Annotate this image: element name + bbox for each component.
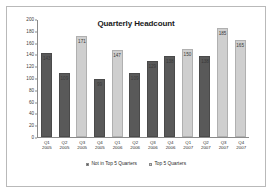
x-axis-label: Q32006 — [144, 140, 162, 150]
bar-value-label: 171 — [78, 40, 86, 45]
x-axis-label: Q32007 — [215, 140, 233, 150]
bar-value-label: 109 — [131, 77, 139, 82]
bar-slot: 129 — [143, 20, 161, 137]
x-axis-label: Q42005 — [91, 140, 109, 150]
x-axis-label: Q22005 — [56, 140, 74, 150]
x-axis-labels: Q12005Q22005Q32005Q42005Q12006Q22006Q320… — [38, 140, 250, 150]
bar-slot: 138 — [161, 20, 179, 137]
bar[interactable]: 129 — [147, 61, 158, 137]
x-axis-label-year: 2006 — [144, 145, 162, 150]
bar-slot: 147 — [108, 20, 126, 137]
x-axis-label-year: 2007 — [215, 145, 233, 150]
bar[interactable]: 150 — [182, 49, 193, 138]
bar[interactable]: 143 — [41, 53, 52, 137]
bar-value-label: 138 — [201, 60, 209, 65]
x-axis-line — [37, 137, 249, 138]
bar[interactable]: 165 — [235, 40, 246, 137]
chart-frame: Quarterly Headcount 02040608010012014016… — [6, 6, 266, 187]
y-axis-tick-mark — [35, 79, 37, 80]
plot-area: 020406080100120140160180200 143109171991… — [37, 20, 249, 138]
x-axis-label: Q22007 — [197, 140, 215, 150]
bar-slot: 109 — [56, 20, 74, 137]
bar-value-label: 185 — [219, 32, 227, 37]
x-axis-label-year: 2005 — [38, 145, 56, 150]
x-axis-label: Q42006 — [162, 140, 180, 150]
x-axis-label: Q12007 — [179, 140, 197, 150]
x-axis-label-year: 2005 — [91, 145, 109, 150]
bar[interactable]: 147 — [112, 50, 123, 137]
y-axis-tick-mark — [35, 126, 37, 127]
bar-slot: 138 — [196, 20, 214, 137]
bar[interactable]: 185 — [217, 28, 228, 137]
bar-slot: 171 — [73, 20, 91, 137]
chart-legend: Not in Top 5 QuartersTop 5 Quarters — [7, 162, 265, 167]
y-axis-tick-mark — [35, 31, 37, 32]
bar-value-label: 109 — [61, 77, 69, 82]
bar[interactable]: 138 — [164, 56, 175, 137]
bar-slot: 185 — [214, 20, 232, 137]
bar-slot: 150 — [179, 20, 197, 137]
bar[interactable]: 109 — [129, 73, 140, 137]
bar-slot: 143 — [38, 20, 56, 137]
bar[interactable]: 171 — [76, 36, 87, 137]
bar-value-label: 129 — [148, 65, 156, 70]
x-axis-label: Q12006 — [109, 140, 127, 150]
x-axis-label-year: 2006 — [126, 145, 144, 150]
bar[interactable]: 138 — [199, 56, 210, 137]
bar[interactable]: 109 — [59, 73, 70, 137]
bar-value-label: 150 — [184, 53, 192, 58]
y-axis-tick-mark — [35, 90, 37, 91]
bar-value-label: 143 — [43, 57, 51, 62]
legend-item[interactable]: Top 5 Quarters — [149, 162, 186, 167]
x-axis-label-year: 2007 — [197, 145, 215, 150]
legend-swatch-icon — [86, 163, 90, 167]
x-axis-label-year: 2005 — [56, 145, 74, 150]
x-axis-label: Q32005 — [73, 140, 91, 150]
bar-slot: 99 — [91, 20, 109, 137]
bar-series: 14310917199147109129138150138185165 — [38, 20, 249, 137]
bar-slot: 165 — [231, 20, 249, 137]
y-axis-tick-mark — [35, 20, 37, 21]
y-axis-tick-mark — [35, 55, 37, 56]
y-axis-tick-mark — [35, 43, 37, 44]
x-axis-label-year: 2007 — [179, 145, 197, 150]
x-axis-label-year: 2006 — [162, 145, 180, 150]
legend-item[interactable]: Not in Top 5 Quarters — [86, 162, 137, 167]
y-axis-tick-mark — [35, 138, 37, 139]
x-axis-label-year: 2005 — [73, 145, 91, 150]
bar[interactable]: 99 — [94, 79, 105, 137]
legend-item-label: Not in Top 5 Quarters — [91, 162, 137, 167]
bar-value-label: 165 — [236, 44, 244, 49]
legend-item-label: Top 5 Quarters — [154, 162, 186, 167]
x-axis-label-year: 2007 — [232, 145, 250, 150]
y-axis-tick-mark — [35, 102, 37, 103]
legend-swatch-icon — [149, 163, 153, 167]
x-axis-label-year: 2006 — [109, 145, 127, 150]
x-axis-label: Q22006 — [126, 140, 144, 150]
bar-slot: 109 — [126, 20, 144, 137]
x-axis-label: Q42007 — [232, 140, 250, 150]
x-axis-label: Q12005 — [38, 140, 56, 150]
bar-value-label: 147 — [113, 54, 121, 59]
bar-value-label: 99 — [97, 83, 102, 88]
y-axis-tick-mark — [35, 67, 37, 68]
y-axis-tick-mark — [35, 114, 37, 115]
bar-value-label: 138 — [166, 60, 174, 65]
